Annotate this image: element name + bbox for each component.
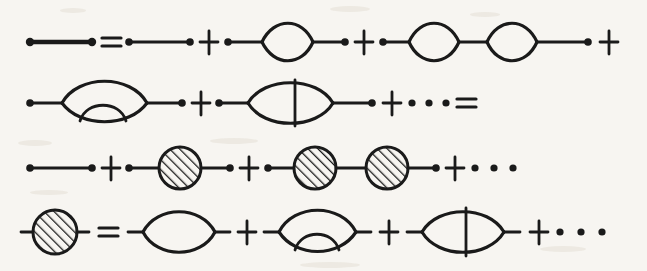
operator-plus — [200, 31, 218, 54]
operator-plus — [380, 221, 398, 244]
row-3 — [26, 147, 516, 189]
operator-plus — [192, 92, 210, 115]
operator-plus — [600, 31, 618, 54]
term-bare-propagator — [26, 164, 96, 172]
term-rainbow-loop — [26, 81, 186, 122]
term-loop-stub — [128, 212, 230, 253]
operator-plus — [240, 157, 258, 180]
term-bare-propagator — [125, 38, 194, 46]
term-rainbow-stub — [264, 210, 371, 251]
operator-plus — [530, 221, 548, 244]
operator-equals — [99, 228, 118, 236]
row-1 — [26, 23, 618, 61]
operator-equals — [457, 99, 476, 107]
operator-equals — [102, 38, 121, 46]
operator-plus — [238, 221, 256, 244]
term-hatched-blob — [21, 210, 89, 254]
term-crossed-loop — [215, 80, 376, 126]
operator-plus — [355, 31, 373, 54]
operator-plus — [446, 157, 464, 180]
term-thick-propagator — [26, 38, 96, 46]
operator-plus — [102, 157, 120, 180]
diagram-canvas — [0, 0, 647, 271]
operator-plus — [383, 92, 401, 115]
term-crossed-stub — [407, 208, 520, 256]
operator-ellipsis — [471, 164, 516, 171]
term-double-blob-insertion — [264, 147, 440, 189]
operator-ellipsis — [408, 99, 449, 106]
feynman-diagram-figure — [0, 0, 647, 271]
row-4 — [21, 208, 606, 256]
row-2 — [26, 80, 476, 126]
term-two-loop-chain — [379, 23, 592, 61]
operator-ellipsis — [556, 228, 605, 235]
term-blob-insertion — [125, 147, 234, 189]
term-one-loop — [224, 23, 349, 61]
